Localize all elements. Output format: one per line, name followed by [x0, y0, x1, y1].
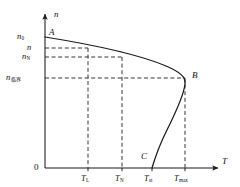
speed-torque-characteristic-figure: n T 0 n0nnNn临界 TLTNTstTmax ABC — [0, 0, 240, 187]
x-tick-label-Tst: Tst — [144, 174, 153, 183]
axes-group — [45, 14, 218, 168]
x-tick-label-TN: TN — [115, 174, 124, 183]
x-tick-label-TL: TL — [81, 174, 89, 183]
x-tick-label-Tmax: Tmax — [174, 174, 188, 183]
y-tick-label-n0: n0 — [17, 32, 24, 41]
y-tick-label-ncritical: n临界 — [6, 73, 21, 82]
point-label-C: C — [141, 152, 147, 161]
point-label-A: A — [49, 28, 55, 37]
y-tick-label-n: n — [27, 43, 31, 52]
y-axis-label: n — [54, 10, 59, 19]
x-axis-label: T — [222, 157, 227, 166]
point-label-B: B — [192, 71, 198, 80]
vertical-dashed-guides — [88, 48, 185, 168]
y-tick-label-nN: nN — [22, 52, 30, 61]
figure-canvas — [0, 0, 240, 187]
horizontal-dashed-guides — [45, 48, 185, 78]
origin-label: 0 — [34, 163, 39, 172]
